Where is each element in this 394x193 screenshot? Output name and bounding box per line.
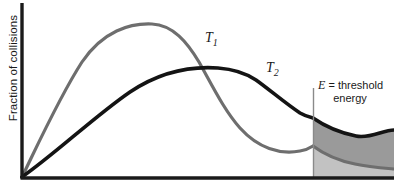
curve-label-t2-subscript: 2: [274, 67, 279, 78]
curve-label-t1-symbol: T: [205, 30, 213, 45]
threshold-annotation-line-1: E = threshold: [318, 79, 394, 92]
curve-label-t2-symbol: T: [266, 60, 274, 75]
curve-label-t2: T2: [266, 60, 279, 78]
threshold-equals-text: = threshold: [325, 79, 383, 91]
curve-label-t1: T1: [205, 30, 218, 48]
threshold-annotation-line-2: energy: [318, 92, 394, 105]
y-axis-label: Fraction of collisions: [7, 3, 19, 133]
threshold-energy-annotation: E = threshold energy: [318, 79, 394, 104]
curve-label-t1-subscript: 1: [213, 37, 218, 48]
maxwell-boltzmann-chart: Fraction of collisions T1 T2 E = thresho…: [0, 0, 394, 193]
